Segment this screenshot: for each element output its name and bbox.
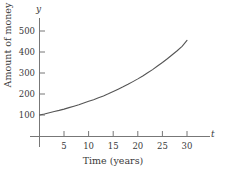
y-axis-label: Amount of money [3,0,13,95]
y-axis-label-wrapper: Amount of money [3,0,15,95]
x-axis-symbol: t [211,130,215,139]
y-tick-label: 100 [0,111,35,120]
y-axis-symbol: y [36,5,41,14]
x-tick-label: 30 [182,142,193,151]
x-tick-marks [64,131,187,137]
x-axis-label: Time (years) [0,156,226,166]
x-tick-label: 20 [132,142,143,151]
x-tick-label: 25 [157,142,168,151]
data-curve [40,40,188,115]
x-tick-label: 15 [108,142,119,151]
x-tick-label: 10 [83,142,94,151]
x-tick-label: 5 [61,142,66,151]
y-tick-marks [40,31,46,115]
chart-figure: y t 500 400 300 200 100 5 10 15 20 25 30… [0,0,226,175]
